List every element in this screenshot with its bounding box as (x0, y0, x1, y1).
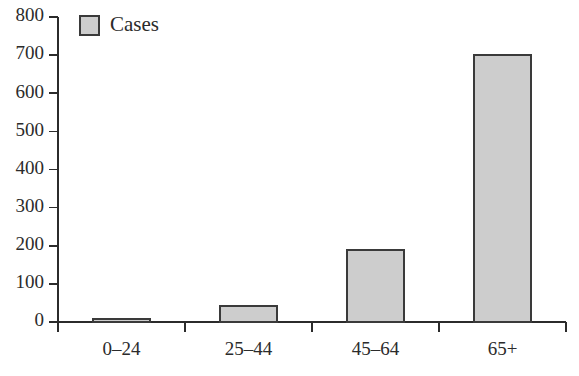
x-axis: 0–2425–4445–6465+ (58, 322, 566, 359)
x-tick-label: 25–44 (225, 338, 273, 359)
x-tick-label: 0–24 (103, 338, 142, 359)
bar-65+ (474, 55, 532, 322)
bar-chart: 0100200300400500600700800 0–2425–4445–64… (0, 0, 579, 376)
y-tick-label: 0 (35, 309, 45, 330)
bar-45-64 (347, 250, 405, 322)
bar-25-44 (220, 306, 278, 322)
y-axis-ticks (49, 17, 58, 322)
x-tick-label: 45–64 (352, 338, 400, 359)
y-axis-tick-labels: 0100200300400500600700800 (16, 4, 45, 330)
y-tick-label: 600 (16, 81, 45, 102)
bar-series-cases (93, 55, 532, 322)
y-tick-label: 400 (16, 157, 45, 178)
legend-swatch-cases (80, 16, 99, 35)
chart-canvas: 0100200300400500600700800 0–2425–4445–64… (0, 0, 579, 376)
y-tick-label: 800 (16, 4, 45, 25)
x-axis-tick-labels: 0–2425–4445–6465+ (103, 338, 518, 359)
legend: Cases (80, 12, 159, 36)
x-tick-label: 65+ (488, 338, 518, 359)
y-tick-label: 200 (16, 233, 45, 254)
bar-0-24 (93, 319, 151, 322)
y-axis: 0100200300400500600700800 (16, 4, 59, 330)
y-tick-label: 300 (16, 195, 45, 216)
legend-label-cases: Cases (110, 12, 159, 36)
y-tick-label: 100 (16, 271, 45, 292)
y-tick-label: 700 (16, 42, 45, 63)
y-tick-label: 500 (16, 119, 45, 140)
x-axis-ticks (58, 322, 566, 332)
